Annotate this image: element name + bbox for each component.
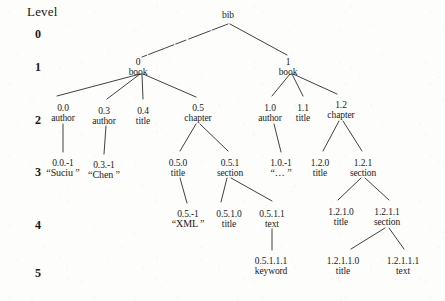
edge-0-to-0.0 [57,74,140,96]
level-number-3: 3 [31,165,45,180]
node-tag-label: section [350,168,376,178]
node-id-label: 0.3 [92,106,116,116]
node-tag-label: title [327,266,359,276]
tree-node-1: 1book [279,57,298,78]
xml-tree-figure: Level 012345 bib0book1book0.0author0.3au… [0,0,445,301]
level-number-5: 5 [31,266,45,281]
edge-1-to-1.2 [293,74,337,94]
level-number-0: 0 [31,27,45,42]
edge-0.5-to-0.5.0 [180,124,196,151]
edge-0-to-0.5 [143,74,196,97]
node-tag-label: author [258,113,282,123]
node-tag-label: title [296,113,310,123]
tree-node-0: 0book [129,57,148,78]
tree-node-1.0.-1: 1.0.-1“… ” [270,158,292,179]
node-tag-label: section [217,168,243,178]
node-id-label: 0.5.1.1 [259,209,284,219]
edge-0.5.0-to-0.5.-1 [180,178,187,203]
node-tag-label: “… ” [270,168,292,179]
node-tag-label: bib [222,10,234,20]
node-tag-label: chapter [184,113,211,123]
edge-1.2-to-1.2.1 [343,121,362,151]
node-id-label: 1.2 [327,100,354,110]
node-tag-label: text [387,266,419,276]
node-id-label: 1.2.1.1 [374,207,400,217]
level-number-1: 1 [31,60,45,75]
edge-0.3-to-0.3.-1 [104,126,106,154]
edge-root-to-0 [142,24,228,57]
tree-node-0.5.0: 0.5.0title [169,158,188,179]
node-tag-label: title [311,168,330,178]
tree-node-0.0: 0.0author [51,103,75,124]
edge-1.2.1.1-to-1.2.1.1.1 [389,228,404,249]
tree-node-1.2.0: 1.2.0title [311,158,330,179]
node-tag-label: keyword [255,266,288,276]
node-id-label: 1 [279,57,298,67]
edge-1.2.1.1-to-1.2.1.1.0 [351,228,385,249]
node-id-label: 1.2.1.0 [328,207,353,217]
tree-node-1.2: 1.2chapter [327,100,354,121]
edge-1.2-to-1.2.0 [323,121,339,151]
level-number-2: 2 [31,113,45,128]
node-tag-label: text [259,219,284,229]
edge-root-to-1 [230,24,287,55]
tree-node-0.3.-1: 0.3.-1“Chen ” [88,160,120,181]
node-tag-label: title [136,116,150,126]
tree-node-0.5: 0.5chapter [184,103,211,124]
tree-node-1.2.1.1.0: 1.2.1.1.0title [327,256,359,277]
node-tag-label: “Suciu ” [46,168,79,179]
node-id-label: 0.5.0 [169,158,188,168]
node-tag-label: title [328,217,353,227]
node-tag-label: title [169,168,188,178]
node-id-label: 0 [129,57,148,67]
tree-node-root: bib [222,10,234,20]
edge-1.0-to-1.0.-1 [274,124,281,152]
level-number-4: 4 [31,218,45,233]
node-id-label: 0.5 [184,103,211,113]
tree-node-0.5.1: 0.5.1section [217,158,243,179]
tree-node-1.2.1.0: 1.2.1.0title [328,207,353,228]
node-id-label: 0.5.1.1.1 [255,256,288,266]
node-id-label: 1.2.1.1.0 [327,256,359,266]
node-tag-label: title [216,219,241,229]
tree-node-1.2.1: 1.2.1section [350,158,376,179]
tree-node-0.5.-1: 0.5.-1“XML ” [172,209,205,230]
node-id-label: 1.0 [258,103,282,113]
node-tag-label: author [92,116,116,126]
tree-node-1.2.1.1.1: 1.2.1.1.1text [387,256,419,277]
tree-edges [0,0,445,301]
node-tag-label: book [279,67,298,77]
tree-node-0.5.1.1: 0.5.1.1text [259,209,284,230]
edge-0.5.1-to-0.5.1.0 [221,178,227,202]
node-id-label: 1.2.1.1.1 [387,256,419,266]
node-id-label: 1.2.0 [311,158,330,168]
node-tag-label: book [129,67,148,77]
edge-0-to-0.4 [142,74,143,99]
node-id-label: 1.1 [296,103,310,113]
node-tag-label: chapter [327,110,354,120]
node-id-label: 0.5.1 [217,158,243,168]
level-axis-title: Level [27,4,58,20]
tree-node-0.0.-1: 0.0.-1“Suciu ” [46,158,79,179]
node-tag-label: “XML ” [172,219,205,230]
edge-0.5.1-to-0.5.1.1 [231,178,272,201]
node-tag-label: author [51,113,75,123]
edge-1.2.1-to-1.2.1.1 [365,178,389,200]
tree-node-0.5.1.0: 0.5.1.0title [216,209,241,230]
tree-node-0.3: 0.3author [92,106,116,127]
node-tag-label: section [374,217,400,227]
node-id-label: 0.4 [136,106,150,116]
tree-node-1.1: 1.1title [296,103,310,124]
tree-node-0.4: 0.4title [136,106,150,127]
tree-node-0.5.1.1.1: 0.5.1.1.1keyword [255,256,288,277]
tree-node-1.2.1.1: 1.2.1.1section [374,207,400,228]
edge-0-to-0.3 [107,74,140,99]
node-id-label: 1.2.1 [350,158,376,168]
node-id-label: 0.5.1.0 [216,209,241,219]
tree-node-1.0: 1.0author [258,103,282,124]
edge-0.5-to-0.5.1 [200,124,228,151]
node-tag-label: “Chen ” [88,170,120,181]
node-id-label: 0.0 [51,103,75,113]
edge-1.2.1-to-1.2.1.0 [338,178,361,200]
